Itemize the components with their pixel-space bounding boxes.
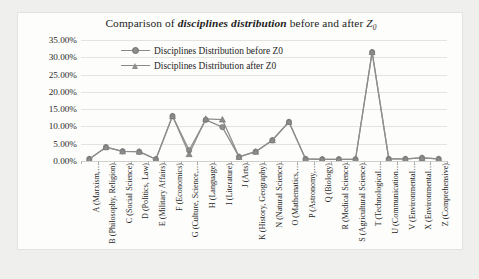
- x-axis-category-label: I (Literature): [226, 163, 234, 205]
- figure-container: Comparison of disciplines distribution b…: [0, 0, 479, 279]
- y-axis-tick-label: 25.00%: [49, 70, 77, 80]
- chart-title-emphasis: disciplines distribution: [178, 17, 287, 29]
- x-axis-category-label: B (Philosophy, Religion): [109, 163, 117, 244]
- x-axis-category-label: D (Politics, Law): [142, 163, 150, 219]
- x-axis-category-label: V (Environmental…: [409, 163, 417, 230]
- y-axis-tick-label: 15.00%: [49, 104, 77, 114]
- y-axis-tick-label: 30.00%: [49, 52, 77, 62]
- y-axis-tick-label: 5.00%: [53, 139, 77, 149]
- chart-title-z-subscript: 0: [373, 23, 377, 32]
- y-axis-tick-label: 10.00%: [49, 121, 77, 131]
- x-axis-category-label: P (Astronomy,…: [309, 163, 317, 218]
- x-axis-category-label: C (Social Science): [126, 163, 134, 223]
- y-axis-tick-label: 20.00%: [49, 87, 77, 97]
- x-axis-category-label: R (Medical Science): [342, 163, 350, 230]
- x-axis-category-label: N (Natural Science): [276, 163, 284, 228]
- x-axis-category-label: A (Marxism,…: [93, 163, 101, 212]
- x-axis-category-label: K (History, Geography): [259, 163, 267, 240]
- plot-area: 0.00%5.00%10.00%15.00%20.00%25.00%30.00%…: [81, 40, 447, 161]
- chart-title-z-symbol: Z0: [366, 17, 376, 29]
- x-axis-category-label: H (Language): [209, 163, 217, 208]
- x-axis-category-label: G (Culture, Science,…: [192, 163, 200, 237]
- x-axis-category-label: E (Military Affairs): [159, 163, 167, 226]
- x-axis-category-label: F (Economics): [176, 163, 184, 211]
- x-axis-category-label: Z (Comprehensive): [442, 163, 450, 226]
- series-line-after: [89, 52, 438, 159]
- x-axis-category-label: S (Agricultural Science): [359, 163, 367, 242]
- chart-title-middle: before and after: [287, 17, 367, 29]
- x-axis-category-label: T (Technological…: [375, 163, 383, 226]
- x-axis-labels: A (Marxism,…B (Philosophy, Religion)C (S…: [81, 163, 447, 259]
- x-axis-category-label: U (Communication…: [392, 163, 400, 234]
- chart-card: Comparison of disciplines distribution b…: [17, 12, 463, 250]
- x-axis-category-label: X (Environmental…: [425, 163, 433, 230]
- x-axis-category-label: O (Mathematics,…: [292, 163, 300, 226]
- chart-title: Comparison of disciplines distribution b…: [18, 17, 464, 32]
- y-axis-tick-label: 0.00%: [53, 156, 77, 166]
- series-lines: [81, 40, 447, 161]
- y-axis-tick-label: 35.00%: [49, 35, 77, 45]
- chart-title-prefix: Comparison of: [105, 17, 177, 29]
- x-axis-category-label: J (Arts): [242, 163, 250, 188]
- x-axis-category-label: Q (Biology): [325, 163, 333, 202]
